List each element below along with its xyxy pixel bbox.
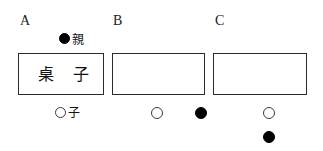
panel-b-open-circle-icon	[151, 107, 163, 119]
box-a: 桌 子	[18, 53, 104, 95]
diagram-canvas: A 親 桌 子 子 B C	[0, 0, 323, 151]
panel-label-c: C	[215, 14, 224, 28]
panel-label-a: A	[20, 14, 30, 28]
child-marker-open-circle-icon	[55, 107, 66, 118]
panel-c-open-circle-icon	[263, 107, 275, 119]
parent-marker-caption: 親	[72, 34, 84, 46]
box-b	[112, 53, 205, 95]
box-a-text: 桌 子	[38, 67, 96, 83]
box-c	[213, 53, 307, 95]
panel-b-filled-circle-icon	[195, 107, 207, 119]
parent-marker-filled-circle-icon	[59, 33, 70, 44]
panel-c-filled-circle-icon	[263, 131, 275, 143]
panel-label-b: B	[113, 14, 122, 28]
child-marker-caption: 子	[68, 107, 80, 119]
